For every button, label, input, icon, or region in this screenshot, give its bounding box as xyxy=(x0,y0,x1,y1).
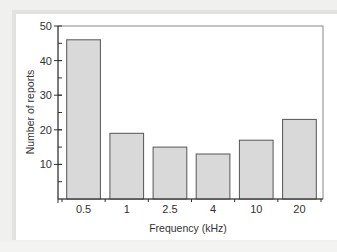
x-tick-label: 0.5 xyxy=(76,203,91,215)
x-tick-label: 10 xyxy=(250,203,262,215)
bar-4 xyxy=(196,154,230,199)
y-axis: 1020304050 xyxy=(40,20,62,203)
x-tick-label: 20 xyxy=(293,203,305,215)
y-tick-label: 20 xyxy=(40,124,52,136)
bar-0.5 xyxy=(67,40,101,199)
bar-chart: 1020304050 0.512.541020 Frequency (kHz) … xyxy=(0,0,337,252)
y-axis-title: Number of reports xyxy=(24,70,36,155)
y-tick-label: 40 xyxy=(40,55,52,67)
bar-20 xyxy=(283,119,317,199)
bar-2.5 xyxy=(153,147,187,199)
y-tick-label: 30 xyxy=(40,89,52,101)
x-tick-label: 4 xyxy=(210,203,216,215)
x-tick-label: 1 xyxy=(124,203,130,215)
bar-10 xyxy=(239,140,273,199)
y-tick-label: 50 xyxy=(40,20,52,32)
y-tick-label: 10 xyxy=(40,158,52,170)
bar-1 xyxy=(110,133,144,199)
bars xyxy=(67,40,317,199)
x-axis-title: Frequency (kHz) xyxy=(149,222,227,234)
x-axis: 0.512.541020 xyxy=(58,199,323,215)
x-tick-label: 2.5 xyxy=(162,203,177,215)
